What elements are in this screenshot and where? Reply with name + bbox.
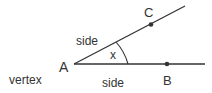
label-side-upper: side [76,34,98,48]
angle-diagram: A C B x side side vertex [0,0,212,93]
label-side-lower: side [102,76,124,90]
label-vertex: vertex [9,73,42,87]
label-b: B [163,73,172,88]
point-b-dot [165,62,170,67]
label-angle-x: x [110,48,116,62]
label-a: A [59,59,69,75]
point-c-dot [149,22,154,27]
angle-arc [116,42,128,64]
label-c: C [144,5,153,20]
